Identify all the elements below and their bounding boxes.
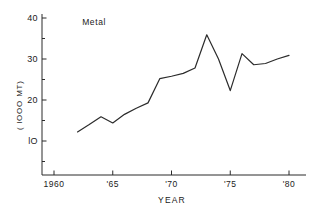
chart-container: lO203040 1960'65'70'75'80 ( lOOO MT) YEA… — [0, 0, 328, 209]
metal-line-chart: lO203040 1960'65'70'75'80 ( lOOO MT) YEA… — [0, 0, 328, 209]
y-tick-label: 30 — [27, 54, 38, 64]
y-tick-label: 20 — [27, 95, 38, 105]
x-tick-label: '65 — [106, 179, 119, 189]
y-axis-ticks — [42, 18, 47, 162]
y-tick-label: lO — [28, 136, 38, 146]
x-axis-tick-labels: 1960'65'70'75'80 — [44, 179, 296, 189]
x-axis-ticks — [54, 171, 289, 176]
x-tick-label: '80 — [283, 179, 296, 189]
y-axis-tick-labels: lO203040 — [27, 13, 38, 146]
series-label-metal: Metal — [82, 17, 106, 27]
metal-data-line — [78, 35, 290, 132]
y-tick-label: 40 — [27, 13, 38, 23]
y-axis-title: ( lOOO MT) — [15, 80, 24, 130]
x-tick-label: '70 — [165, 179, 178, 189]
x-tick-label: 1960 — [44, 179, 65, 189]
x-tick-label: '75 — [224, 179, 237, 189]
x-axis-title: YEAR — [158, 195, 186, 205]
